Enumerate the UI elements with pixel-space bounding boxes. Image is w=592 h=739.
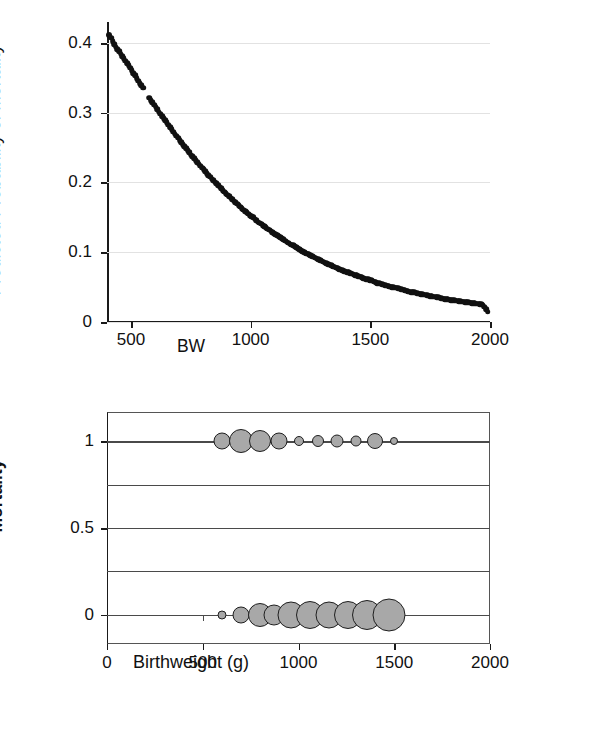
- top-plot-area: 00.10.20.30.4 500100015002000: [107, 22, 490, 322]
- bottom-gridline: [107, 528, 490, 529]
- top-y-tick: [101, 43, 107, 45]
- bubble-marker: [233, 606, 250, 623]
- bottom-gridline: [107, 485, 490, 486]
- bubble-marker: [367, 433, 383, 449]
- top-y-tick-label: 0.2: [68, 172, 92, 192]
- top-y-tick-label: 0.4: [68, 33, 92, 53]
- bottom-x-tick: [490, 644, 491, 650]
- bubble-marker: [271, 433, 288, 450]
- top-x-tick-label: 1500: [351, 330, 389, 350]
- bubble-marker: [312, 435, 324, 447]
- bottom-x-tick: [203, 644, 204, 650]
- bubble-marker: [350, 436, 361, 447]
- bubble-marker: [330, 435, 343, 448]
- top-y-tick: [101, 182, 107, 184]
- top-y-tick-label: 0.3: [68, 103, 92, 123]
- bottom-y-tick: [101, 615, 107, 617]
- bottom-x-axis-title: Birthweight (g): [133, 652, 249, 673]
- bubble-marker: [294, 436, 304, 446]
- top-gridline: [107, 43, 490, 44]
- bottom-x-minor-tick: [203, 615, 204, 621]
- top-y-tick: [101, 252, 107, 254]
- bubble-marker: [213, 433, 230, 450]
- bubble-marker: [372, 598, 405, 631]
- top-gridline: [107, 182, 490, 183]
- top-x-tick-label: 500: [117, 330, 145, 350]
- bottom-y-tick-labels: 00.51: [93, 412, 94, 644]
- top-y-axis-title: Predicted Probability of Mortality: [0, 45, 5, 296]
- bottom-x-tick-label: 2000: [471, 653, 509, 673]
- top-data-point: [485, 309, 491, 315]
- bottom-gridline: [107, 571, 490, 572]
- bottom-x-tick-label: 0: [102, 653, 111, 673]
- bottom-y-tick-label: 1: [85, 431, 94, 451]
- top-y-tick-labels: 00.10.20.30.4: [91, 22, 92, 322]
- figure-container: Predicted Probability of Mortality 00.10…: [0, 0, 592, 739]
- bottom-y-tick-label: 0.5: [70, 518, 94, 538]
- bubble-marker: [249, 430, 271, 452]
- bottom-x-tick-label: 1500: [375, 653, 413, 673]
- top-x-tick-label: 1000: [232, 330, 270, 350]
- bottom-x-tick: [107, 644, 108, 650]
- bottom-y-tick: [101, 441, 107, 443]
- top-y-tick-label: 0.1: [68, 242, 92, 262]
- bottom-plot-area: 00.51 0500100015002000: [107, 412, 490, 644]
- bottom-y-axis-title: Mortality: [0, 460, 7, 533]
- bottom-x-tick-label: 1000: [280, 653, 318, 673]
- top-x-tick: [370, 322, 372, 328]
- top-x-tick: [251, 322, 253, 328]
- bubble-marker: [217, 610, 226, 619]
- top-y-tick-label: 0: [83, 312, 92, 332]
- bottom-x-tick: [299, 644, 300, 650]
- bottom-y-tick-label: 0: [85, 605, 94, 625]
- top-y-tick: [101, 113, 107, 115]
- top-y-tick: [101, 322, 107, 324]
- top-data-point: [140, 85, 146, 91]
- bottom-x-tick: [394, 644, 395, 650]
- top-x-tick: [490, 322, 492, 328]
- bubble-marker: [390, 437, 398, 445]
- top-x-axis-title: BW: [177, 336, 205, 357]
- bottom-y-tick: [101, 528, 107, 530]
- top-gridline: [107, 322, 490, 323]
- top-x-tick-label: 2000: [471, 330, 509, 350]
- bottom-chart-panel: Mortality 00.51 0500100015002000 Birthwe…: [0, 380, 592, 739]
- top-x-tick: [131, 322, 133, 328]
- top-y-axis-line: [107, 22, 109, 322]
- top-chart-panel: Predicted Probability of Mortality 00.10…: [0, 0, 592, 380]
